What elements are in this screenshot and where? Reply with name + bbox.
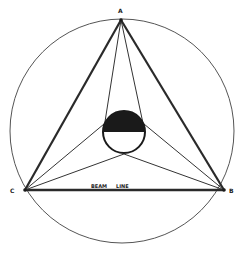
line-c-inner-left <box>25 124 104 190</box>
vertex-a-dot <box>119 18 123 22</box>
beam-label-word1: BEAM <box>91 183 107 189</box>
beam-label-word2: LINE <box>116 183 129 189</box>
label-b: B <box>229 187 234 194</box>
side-a-b <box>121 20 224 190</box>
side-a-c <box>25 20 121 190</box>
label-c: C <box>10 187 15 194</box>
vertex-c-dot <box>23 188 27 192</box>
line-b-inner-right <box>144 124 224 190</box>
vertex-b-dot <box>222 188 226 192</box>
line-b-inner-bottom <box>124 154 224 190</box>
label-a: A <box>118 7 123 14</box>
beam-line-diagram: A B C BEAM LINE <box>0 0 246 258</box>
inner-circle-filled-half <box>103 111 145 132</box>
line-c-inner-bottom <box>25 154 124 190</box>
